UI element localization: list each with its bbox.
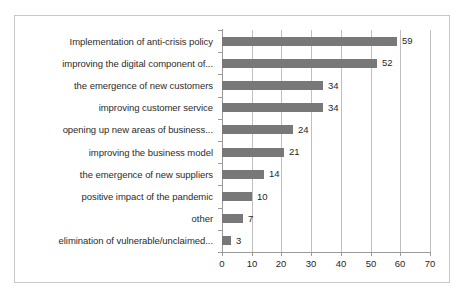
value-axis-tick-label: 0 [219,258,224,270]
category-label: improving customer service [18,97,218,119]
value-axis-tick [371,252,372,256]
category-axis-tick [218,119,222,120]
value-axis-tick-label: 50 [366,258,377,270]
bar-row[interactable]: 24 [222,119,430,141]
value-axis-tick-label: 20 [276,258,287,270]
bar-row[interactable]: 34 [222,74,430,96]
category-label: positive impact of the pandemic [18,185,218,207]
value-axis-tick-labels: 010203040506070 [222,258,430,272]
bars-layer: 595234342421141073 [222,30,430,252]
value-axis-tick [252,252,253,256]
value-axis-tick-label: 10 [247,258,258,270]
bar[interactable] [222,125,293,134]
value-axis-tick [430,252,431,256]
bar-value-label: 34 [328,103,339,113]
bar-value-label: 52 [382,58,393,68]
category-axis-tick [218,97,222,98]
category-axis-tick [218,163,222,164]
value-axis-tick [222,252,223,256]
bar[interactable] [222,59,377,68]
value-axis-tick-label: 40 [336,258,347,270]
gridline [430,30,431,252]
category-label: Implementation of anti-crisis policy [18,30,218,52]
category-label: the emergence of new suppliers [18,163,218,185]
bar-row[interactable]: 10 [222,185,430,207]
bar[interactable] [222,103,323,112]
plot-area: 595234342421141073 [222,30,430,252]
bar[interactable] [222,170,264,179]
bar-row[interactable]: 21 [222,141,430,163]
value-axis-tick-label: 30 [306,258,317,270]
category-label: other [18,208,218,230]
bar-value-label: 14 [269,169,280,179]
category-label: elimination of vulnerable/unclaimed... [18,230,218,252]
bar-value-label: 59 [402,36,413,46]
value-axis-tick [341,252,342,256]
value-axis-tick [281,252,282,256]
value-axis-tick-label: 70 [425,258,436,270]
category-axis-tick [218,208,222,209]
category-axis-tick [218,74,222,75]
bar-row[interactable]: 3 [222,230,430,252]
category-axis: Implementation of anti-crisis policy imp… [18,30,218,252]
bar[interactable] [222,81,323,90]
bar-row[interactable]: 14 [222,163,430,185]
bar[interactable] [222,148,284,157]
bar[interactable] [222,192,252,201]
value-axis-tick [311,252,312,256]
bar-value-label: 21 [289,147,300,157]
category-axis-tick [218,185,222,186]
category-axis-tick [218,141,222,142]
bar-value-label: 24 [298,125,309,135]
bar-value-label: 10 [257,192,268,202]
bar-value-label: 7 [248,214,253,224]
bar-row[interactable]: 59 [222,30,430,52]
bar[interactable] [222,214,243,223]
bar[interactable] [222,37,397,46]
bar-value-label: 34 [328,81,339,91]
category-label: improving the business model [18,141,218,163]
category-label: opening up new areas of business... [18,119,218,141]
category-label: the emergence of new customers [18,74,218,96]
value-axis-tick [400,252,401,256]
category-axis-tick [218,230,222,231]
category-label: improving the digital component of... [18,52,218,74]
bar-value-label: 3 [236,236,241,246]
bar-row[interactable]: 52 [222,52,430,74]
bar[interactable] [222,236,231,245]
bar-row[interactable]: 34 [222,97,430,119]
bar-row[interactable]: 7 [222,208,430,230]
value-axis-tick-label: 60 [395,258,406,270]
category-axis-tick [218,30,222,31]
bar-chart: Implementation of anti-crisis policy imp… [0,0,464,294]
category-axis-tick [218,52,222,53]
